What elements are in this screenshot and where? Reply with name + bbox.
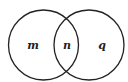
region-label-right: q xyxy=(98,39,106,52)
venn-diagram: m n q xyxy=(0,0,128,82)
region-label-intersection: n xyxy=(63,39,71,52)
region-label-left: m xyxy=(27,39,39,52)
